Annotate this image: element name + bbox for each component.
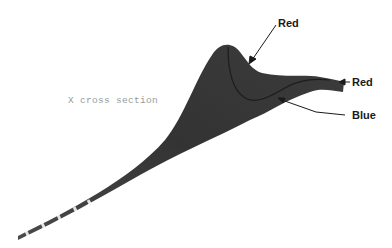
- x-cross-section-label: X cross section: [68, 95, 158, 106]
- annotation-red-right: Red: [352, 76, 373, 88]
- annotation-blue: Blue: [352, 109, 376, 121]
- surface-plot: [0, 0, 392, 248]
- diagram-canvas: Red Red Blue X cross section: [0, 0, 392, 248]
- surface-shape: [18, 45, 344, 240]
- annotation-red-top: Red: [278, 17, 299, 29]
